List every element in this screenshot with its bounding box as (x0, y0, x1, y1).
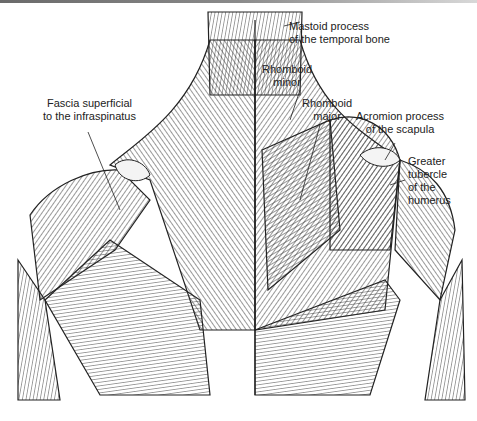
label-rhomboid-minor: Rhomboid minor (262, 63, 312, 89)
label-fascia-infraspinatus: Fascia superficial to the infraspinatus (43, 97, 136, 123)
label-acromion-process: Acromion process of the scapula (356, 110, 444, 136)
scapula-right (330, 117, 400, 250)
anatomy-illustration (0, 0, 477, 421)
label-mastoid-process: Mastoid process of the temporal bone (289, 20, 390, 46)
label-greater-tubercle: Greater tubercle of the humerus (408, 155, 451, 207)
label-rhomboid-major: Rhomboid major (302, 97, 352, 123)
